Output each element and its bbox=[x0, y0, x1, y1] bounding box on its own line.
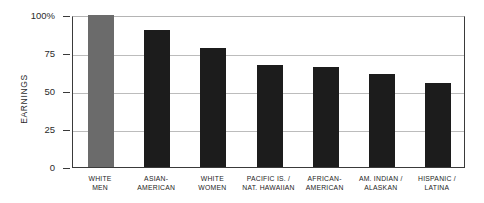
y-axis-tick-label: 25 bbox=[13, 124, 55, 135]
gridline bbox=[73, 55, 464, 56]
bar bbox=[200, 48, 226, 167]
y-axis-tick-mark bbox=[63, 16, 70, 17]
category-label: HISPANIC /LATINA bbox=[391, 174, 483, 192]
bar bbox=[313, 67, 339, 167]
bar bbox=[88, 15, 114, 167]
y-axis-tick-mark bbox=[63, 130, 70, 131]
bar bbox=[257, 65, 283, 167]
y-axis-tick-mark bbox=[63, 54, 70, 55]
bar bbox=[144, 30, 170, 167]
y-axis-tick-mark bbox=[63, 92, 70, 93]
y-axis-tick-mark bbox=[63, 168, 70, 169]
y-axis-tick-label: 0 bbox=[13, 162, 55, 173]
y-axis-tick-label: 50 bbox=[13, 86, 55, 97]
plot-area bbox=[72, 16, 465, 168]
y-axis-title: EARNINGS bbox=[19, 44, 29, 154]
bar bbox=[425, 83, 451, 167]
category-label-line: LATINA bbox=[391, 183, 483, 192]
y-axis-tick-label: 100% bbox=[13, 10, 55, 21]
category-label-line: HISPANIC / bbox=[391, 174, 483, 183]
y-axis-tick-label: 75 bbox=[13, 48, 55, 59]
bar bbox=[369, 74, 395, 167]
earnings-bar-chart: EARNINGS 100%7550250 WHITEMENASIAN-AMERI… bbox=[0, 0, 484, 203]
